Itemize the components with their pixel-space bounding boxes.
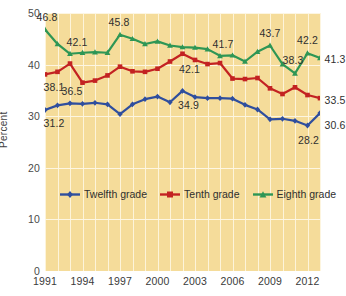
- x-axis-tick-1994: 1994: [70, 275, 94, 287]
- data-label-twelfth-grade-2012: 28.2: [298, 134, 319, 146]
- data-point-marker: [318, 96, 320, 101]
- data-point-marker: [68, 61, 73, 66]
- data-point-marker: [217, 95, 222, 101]
- data-point-marker: [168, 59, 173, 64]
- data-point-marker: [55, 102, 60, 108]
- data-point-marker: [293, 85, 298, 90]
- data-label-twelfth-grade-1993: 36.5: [62, 85, 83, 97]
- legend-item-eighth-grade[interactable]: Eighth grade: [253, 188, 337, 200]
- data-point-marker: [205, 62, 210, 67]
- data-label-twelfth-grade-2013: 30.6: [325, 119, 346, 131]
- data-label-eighth-grade-1997: 45.8: [109, 16, 130, 28]
- data-point-marker: [130, 69, 135, 74]
- y-axis-tick-40: 40: [0, 59, 44, 71]
- y-axis-tick-10: 10: [0, 213, 44, 225]
- data-point-marker: [142, 96, 147, 102]
- data-point-marker: [205, 95, 210, 101]
- legend-item-twelfth-grade[interactable]: Twelfth grade: [60, 188, 147, 200]
- data-label-eighth-grade-2005: 41.7: [213, 38, 234, 50]
- data-label-eighth-grade-1991: 46.8: [37, 11, 58, 23]
- x-axis-tick-2012: 2012: [295, 275, 319, 287]
- data-label-eighth-grade-2012: 42.2: [297, 34, 318, 46]
- x-axis-tick-1997: 1997: [108, 275, 132, 287]
- line-chart: 01020304050 Percent 19911994199720002003…: [0, 0, 346, 296]
- x-axis-tick-2009: 2009: [258, 275, 282, 287]
- x-axis-tick-2006: 2006: [220, 275, 244, 287]
- data-point-marker: [143, 70, 148, 75]
- data-point-marker: [118, 64, 123, 69]
- legend-item-tenth-grade[interactable]: Tenth grade: [160, 188, 239, 200]
- data-point-marker: [93, 78, 98, 83]
- data-point-marker: [80, 80, 85, 85]
- data-point-marker: [67, 100, 72, 106]
- y-axis-tick-20: 20: [0, 162, 44, 174]
- data-point-marker: [45, 72, 47, 77]
- legend-marker-twelfth-icon: [60, 190, 80, 199]
- x-axis-tick-1991: 1991: [33, 275, 57, 287]
- data-point-marker: [255, 76, 260, 81]
- series-lines: [45, 13, 320, 271]
- data-point-marker: [193, 58, 198, 63]
- data-label-eighth-grade-2011: 38.3: [283, 54, 304, 66]
- data-label-eighth-grade-1993: 42.1: [67, 36, 88, 48]
- legend-label-twelfth-grade: Twelfth grade: [84, 188, 147, 200]
- data-point-marker: [243, 77, 248, 82]
- legend-label-tenth-grade: Tenth grade: [184, 188, 239, 200]
- data-point-marker: [292, 118, 297, 124]
- data-point-marker: [155, 66, 160, 71]
- legend-marker-eighth-icon: [253, 190, 273, 199]
- x-axis-tick-2003: 2003: [183, 275, 207, 287]
- data-point-marker: [268, 86, 273, 91]
- y-axis-title: Percent: [0, 111, 9, 148]
- data-label-twelfth-grade-2002: 34.9: [178, 99, 199, 111]
- gridline-vertical: [320, 13, 321, 271]
- data-label-twelfth-grade-1991: 31.2: [44, 117, 65, 129]
- data-label-tenth-grade-2013: 33.5: [325, 94, 346, 106]
- data-point-marker: [218, 61, 223, 66]
- data-point-marker: [180, 51, 185, 56]
- data-point-marker: [105, 73, 110, 78]
- data-point-marker: [267, 43, 273, 48]
- legend-label-eighth-grade: Eighth grade: [277, 188, 337, 200]
- data-point-marker: [305, 93, 310, 98]
- data-point-marker: [55, 70, 60, 75]
- data-label-tenth-grade-2002: 42.1: [179, 63, 200, 75]
- data-point-marker: [45, 107, 48, 113]
- data-point-marker: [280, 116, 285, 122]
- data-label-eighth-grade-2013: 41.3: [325, 53, 346, 65]
- data-point-marker: [92, 100, 97, 106]
- x-axis-tick-2000: 2000: [145, 275, 169, 287]
- data-point-marker: [280, 92, 285, 97]
- legend: Twelfth grade Tenth grade Eighth grade: [60, 188, 336, 200]
- data-point-marker: [80, 101, 85, 107]
- legend-marker-tenth-icon: [160, 190, 180, 199]
- data-label-eighth-grade-2009: 43.7: [260, 27, 281, 39]
- data-point-marker: [230, 76, 235, 81]
